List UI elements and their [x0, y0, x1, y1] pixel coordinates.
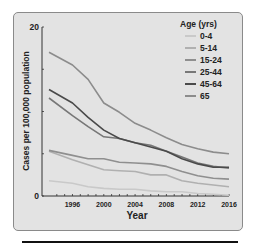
series-line-0-4	[49, 181, 229, 195]
legend-item: 45-64	[180, 78, 222, 90]
x-tick-label: 2012	[190, 201, 206, 208]
legend-swatch	[185, 83, 196, 85]
x-axis-title: Year	[126, 210, 147, 221]
legend-label: 15-24	[200, 55, 222, 65]
bottom-divider	[22, 241, 238, 243]
series-line-25-44	[49, 98, 229, 168]
y-axis-title: Cases per 100,000 population	[21, 51, 31, 171]
legend-title: Age (yrs)	[180, 19, 222, 29]
x-tick-label: 2000	[96, 201, 112, 208]
legend-label: 5-14	[200, 43, 217, 53]
legend-label: 45-64	[200, 79, 222, 89]
x-tick-label: 2008	[159, 201, 175, 208]
legend-label: 65	[200, 91, 209, 101]
legend-swatch	[185, 35, 196, 37]
legend: Age (yrs) 0-45-1415-2425-4445-6465	[180, 19, 222, 102]
legend-item: 15-24	[180, 54, 222, 66]
legend-swatch	[185, 95, 196, 97]
y-tick-label: 0	[34, 191, 39, 201]
y-tick-label: 20	[30, 22, 40, 32]
legend-item: 0-4	[180, 30, 222, 42]
legend-swatch	[185, 71, 196, 73]
x-tick-label: 2004	[127, 201, 143, 208]
legend-item: 65	[180, 90, 222, 102]
legend-swatch	[185, 59, 196, 61]
legend-item: 5-14	[180, 42, 222, 54]
legend-item: 25-44	[180, 66, 222, 78]
legend-label: 25-44	[200, 67, 222, 77]
x-tick-label: 1996	[65, 201, 81, 208]
legend-label: 0-4	[200, 31, 212, 41]
x-tick-label: 2016	[221, 201, 237, 208]
legend-swatch	[185, 47, 196, 49]
